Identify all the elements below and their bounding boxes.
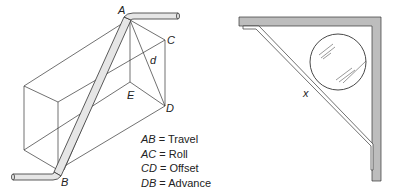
label-d: D bbox=[166, 102, 174, 114]
legend-row-advance: DB = Advance bbox=[141, 176, 211, 191]
label-x: x bbox=[302, 87, 309, 99]
pipe-circle bbox=[310, 34, 366, 90]
label-c: C bbox=[167, 34, 175, 46]
label-e: E bbox=[127, 89, 135, 101]
legend-row-roll: AC = Roll bbox=[141, 147, 211, 162]
legend-row-offset: CD = Offset bbox=[141, 161, 211, 176]
legend: AB = Travel AC = Roll CD = Offset DB = A… bbox=[141, 132, 211, 190]
label-a: A bbox=[117, 4, 125, 16]
label-d-small: d bbox=[150, 54, 157, 66]
legend-row-travel: AB = Travel bbox=[141, 132, 211, 147]
label-b: B bbox=[61, 176, 68, 188]
corner-wall bbox=[239, 17, 381, 181]
